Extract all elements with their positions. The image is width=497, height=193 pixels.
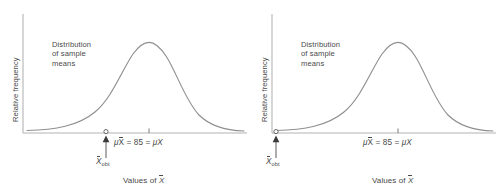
panel-left-graphic: [0, 0, 248, 193]
obtained-mean-arrow-head: [273, 136, 280, 143]
x-axis-label: Values of X: [372, 176, 413, 185]
panel-right-graphic: [249, 0, 497, 193]
obtained-mean-label: Xobt: [96, 157, 110, 167]
distribution-annotation: Distribution of sample means: [52, 40, 91, 68]
y-axis-label: Relative frequency: [260, 57, 269, 122]
mean-label: μX = 85 = μX: [114, 138, 163, 147]
y-axis-label: Relative frequency: [11, 57, 20, 122]
panel-left: Relative frequency Distribution of sampl…: [0, 0, 248, 193]
sampling-distribution-figure: Relative frequency Distribution of sampl…: [0, 0, 497, 193]
mean-label: μX = 85 = μX: [363, 138, 412, 147]
x-axis-label: Values of X: [123, 176, 164, 185]
obtained-mean-label: Xobt: [266, 157, 280, 167]
obtained-mean-arrow-head: [103, 136, 110, 143]
obtained-mean-marker: [104, 130, 108, 134]
obtained-mean-marker: [274, 130, 278, 134]
panel-right: Relative frequency Distribution of sampl…: [249, 0, 497, 193]
distribution-annotation: Distribution of sample means: [301, 40, 340, 68]
